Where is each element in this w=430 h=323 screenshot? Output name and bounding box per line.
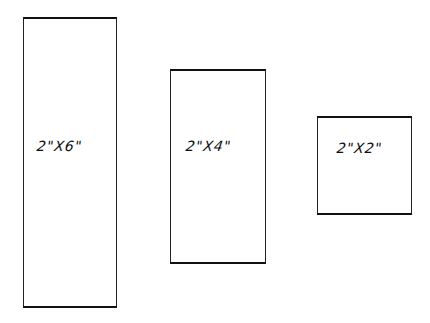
board-2x4-label: 2"X4"	[185, 138, 233, 154]
board-2x2-outline	[317, 116, 412, 215]
board-2x2-label: 2"X2"	[336, 140, 384, 156]
board-2x6-outline	[23, 17, 117, 308]
board-2x4-outline	[170, 69, 266, 264]
board-2x6-label: 2"X6"	[36, 138, 84, 154]
